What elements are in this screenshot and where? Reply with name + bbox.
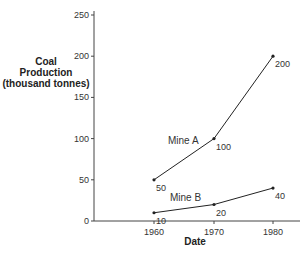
x-tick-label: 1960 (144, 227, 164, 237)
series-label: Mine A (168, 135, 199, 146)
data-point-label: 20 (216, 208, 226, 218)
y-tick-label: 100 (74, 134, 89, 144)
data-point-label: 50 (156, 183, 166, 193)
data-point (271, 55, 274, 58)
y-tick-label: 0 (84, 216, 89, 226)
x-tick-label: 1980 (263, 227, 283, 237)
data-point (271, 186, 274, 189)
y-tick-label: 50 (79, 175, 89, 185)
data-point-label: 200 (275, 59, 290, 69)
data-point (152, 178, 155, 181)
data-point (212, 137, 215, 140)
x-tick-label: 1970 (204, 227, 224, 237)
y-tick-label: 150 (74, 92, 89, 102)
y-tick-label: 200 (74, 51, 89, 61)
line-chart: 05010015020025019601970198050100200Mine … (0, 0, 308, 254)
data-point (212, 203, 215, 206)
y-tick-label: 250 (74, 10, 89, 20)
data-point-label: 40 (275, 191, 285, 201)
data-point (152, 211, 155, 214)
series-line-mine-a (154, 56, 273, 180)
data-point-label: 100 (216, 142, 231, 152)
data-point-label: 10 (156, 216, 166, 226)
series-label: Mine B (170, 192, 201, 203)
